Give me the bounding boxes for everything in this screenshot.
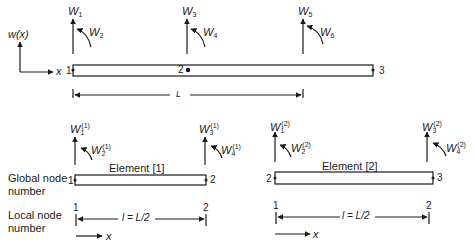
dof-W4: W4: [203, 27, 217, 39]
global-node-1: 1: [66, 66, 72, 76]
elem1-global-node-1: 1: [68, 176, 74, 186]
elem2-global-node-3: 3: [437, 173, 443, 183]
elem2-dof-W1: W1(2): [270, 120, 290, 134]
elem1-dof-W3: W3(1): [199, 122, 219, 136]
elem1-length-label: l = L/2: [122, 213, 150, 223]
global-node-number-label: Global node number: [8, 172, 88, 198]
elem1-local-node-1: 1: [73, 203, 79, 213]
elem1-dof-W1: W1(1): [70, 122, 90, 136]
axis-label-x: x: [56, 66, 62, 77]
length-label-L: L: [176, 90, 181, 99]
elem2-local-node-1: 1: [273, 201, 279, 211]
element-2-title: Element [2]: [322, 161, 378, 172]
dof-W2: W2: [89, 27, 103, 39]
elem1-dof-W2: W2(1): [91, 143, 111, 157]
elem1-x-label: x: [106, 231, 112, 242]
elem1-global-node-2: 2: [210, 175, 216, 185]
dof-W3: W3: [182, 6, 196, 18]
dof-W5: W5: [298, 6, 312, 18]
elem2-dof-W2: W2(2): [291, 141, 311, 155]
elem2-dof-W4: W4(2): [446, 141, 466, 155]
elem2-dof-W3: W3(2): [422, 120, 442, 134]
elem1-dof-W4: W4(1): [221, 143, 241, 157]
elem1-local-node-2: 2: [203, 203, 209, 213]
axis-label-w: w(x): [8, 29, 29, 40]
elem2-x-label: x: [313, 229, 319, 240]
global-node-3: 3: [379, 66, 385, 76]
global-node-2: 2: [178, 65, 184, 75]
elem2-length-label: l = L/2: [342, 211, 370, 221]
elem2-local-node-2: 2: [426, 201, 432, 211]
dof-W1: W1: [68, 6, 82, 18]
dof-W6: W6: [320, 27, 334, 39]
element-1-title: Element [1]: [109, 163, 165, 174]
elem2-global-node-2: 2: [266, 174, 272, 184]
